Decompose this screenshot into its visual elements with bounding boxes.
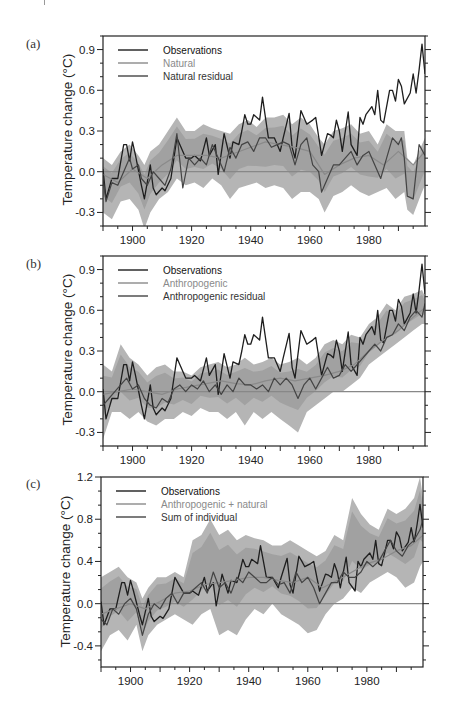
y-tick-label: 0.4 bbox=[77, 555, 94, 567]
y-tick-label: 0.6 bbox=[79, 304, 95, 316]
x-tick-label: 1960 bbox=[297, 454, 323, 466]
plot-b: -0.30.00.30.60.919001920194019601980Obse… bbox=[75, 256, 431, 466]
x-tick-label: 1960 bbox=[295, 675, 321, 687]
x-tick-label: 1940 bbox=[236, 675, 262, 687]
y-tick-label: 0.0 bbox=[79, 166, 95, 178]
x-tick-label: 1920 bbox=[177, 675, 203, 687]
legend-label: Anthropogenic bbox=[163, 278, 228, 289]
uncertainty-band bbox=[103, 290, 425, 439]
plot-c: -0.40.00.40.81.219001920194019601980Obse… bbox=[73, 471, 429, 687]
legend: ObservationsAnthropogenic + naturalSum o… bbox=[116, 486, 267, 523]
x-tick-label: 1900 bbox=[120, 234, 146, 246]
legend: ObservationsAnthropogenicAnthropogenic r… bbox=[118, 265, 265, 302]
y-tick-label: 0.9 bbox=[79, 44, 95, 56]
y-tick-label: 0.0 bbox=[79, 386, 95, 398]
y-tick-label: 0.0 bbox=[77, 598, 93, 610]
x-tick-label: 1900 bbox=[118, 675, 144, 687]
legend-label: Natural residual bbox=[163, 71, 233, 82]
y-tick-label: -0.3 bbox=[75, 206, 95, 218]
y-tick-label: 0.6 bbox=[79, 84, 95, 96]
legend-label: Natural bbox=[163, 58, 195, 69]
x-tick-label: 1920 bbox=[179, 234, 205, 246]
legend: ObservationsNaturalNatural residual bbox=[118, 45, 233, 82]
y-tick-label: 0.3 bbox=[79, 125, 95, 137]
x-tick-label: 1940 bbox=[238, 234, 264, 246]
y-tick-label: 0.8 bbox=[77, 513, 93, 525]
y-tick-label: 0.3 bbox=[79, 345, 95, 357]
y-tick-label: 0.9 bbox=[79, 264, 95, 276]
y-tick-label: -0.4 bbox=[73, 640, 93, 652]
x-tick-label: 1980 bbox=[356, 454, 382, 466]
plot-a: -0.30.00.30.60.919001920194019601980Obse… bbox=[75, 36, 431, 246]
x-tick-label: 1980 bbox=[356, 234, 382, 246]
x-tick-label: 1920 bbox=[179, 454, 205, 466]
y-tick-label: 1.2 bbox=[77, 471, 93, 483]
x-tick-label: 1960 bbox=[297, 234, 323, 246]
legend-label: Anthropogenic residual bbox=[163, 291, 265, 302]
x-tick-label: 1900 bbox=[120, 454, 146, 466]
charts-canvas: -0.30.00.30.60.919001920194019601980Obse… bbox=[0, 0, 454, 718]
legend-label: Sum of individual bbox=[161, 512, 237, 523]
legend-label: Observations bbox=[163, 45, 222, 56]
x-tick-label: 1940 bbox=[238, 454, 264, 466]
x-tick-label: 1980 bbox=[354, 675, 380, 687]
y-tick-label: -0.3 bbox=[75, 426, 95, 438]
legend-label: Observations bbox=[161, 486, 220, 497]
legend-label: Anthropogenic + natural bbox=[161, 499, 267, 510]
legend-label: Observations bbox=[163, 265, 222, 276]
